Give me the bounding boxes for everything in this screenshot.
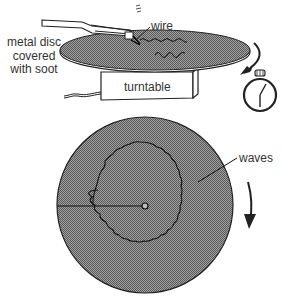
wire-label: wire [151, 20, 173, 33]
stopwatch-icon [244, 70, 276, 111]
turntable-label: turntable [124, 81, 171, 94]
tuning-fork [42, 5, 141, 39]
bottom-disc [57, 117, 237, 293]
tuning-fork-turntable-diagram: metal disc covered with soot wire turnta… [0, 0, 284, 305]
top-disc [60, 30, 250, 72]
power-cord [64, 92, 101, 98]
waves-label: waves [239, 152, 273, 165]
metal-disc-label: metal disc covered with soot [4, 36, 64, 77]
rotation-arrow-bottom-icon [244, 182, 256, 229]
